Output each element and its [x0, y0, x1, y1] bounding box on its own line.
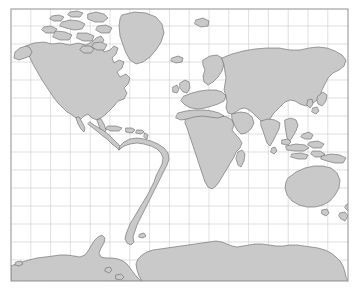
map-background — [0, 0, 360, 289]
map-canvas — [0, 0, 360, 289]
world-map-figure — [0, 0, 360, 289]
